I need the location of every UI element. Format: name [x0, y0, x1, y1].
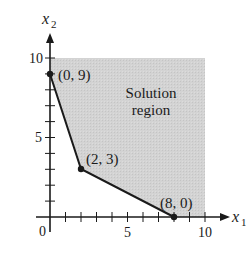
svg-text:x: x [41, 10, 49, 27]
vertex-0-9 [47, 71, 53, 77]
svg-text:2: 2 [51, 18, 57, 30]
vertex-label-0-9: (0, 9) [58, 67, 91, 84]
svg-text:x: x [231, 208, 239, 225]
y-axis-arrow-icon [46, 33, 54, 43]
y-tick-label-5: 5 [35, 130, 42, 145]
y-tick-label-10: 10 [29, 51, 43, 66]
x-axis-arrow-icon [220, 213, 230, 221]
solution-region-diagram: (0, 9) (2, 3) (8, 0) Solution region 0 5… [0, 0, 246, 270]
vertex-label-8-0: (8, 0) [160, 195, 193, 212]
origin-label: 0 [39, 224, 46, 239]
vertex-8-0 [171, 214, 177, 220]
svg-text:1: 1 [241, 216, 246, 228]
region-label-line1: Solution [126, 85, 177, 101]
vertex-label-2-3: (2, 3) [86, 151, 119, 168]
region-label-line2: region [132, 102, 171, 118]
x-tick-label-10: 10 [198, 225, 212, 240]
vertex-2-3 [78, 166, 84, 172]
y-axis-title: x 2 [41, 10, 57, 30]
x-tick-label-5: 5 [124, 225, 131, 240]
x-axis-title: x 1 [231, 208, 246, 228]
